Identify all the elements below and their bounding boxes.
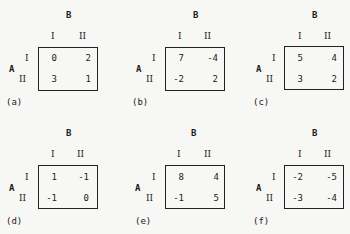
matrix-box: 5 4 3 2: [284, 46, 344, 90]
column-strategy-2-label: II: [324, 149, 331, 159]
column-strategy-1-label: I: [298, 31, 302, 41]
row-strategy-1-label: I: [152, 172, 156, 182]
cell-2-1: -1: [166, 193, 184, 203]
cell-1-2: -1: [71, 172, 89, 182]
cell-2-2: 0: [71, 193, 89, 203]
column-player-label: B: [191, 128, 196, 138]
row-strategy-1-label: I: [152, 53, 156, 63]
cell-2-2: 5: [201, 193, 219, 203]
row-strategy-2-label: II: [146, 74, 153, 84]
column-player-label: B: [66, 128, 71, 138]
cell-1-1: 0: [39, 53, 57, 63]
row-strategy-1-label: I: [25, 172, 29, 182]
row-player-label: A: [136, 64, 141, 74]
matrix-box: 0 2 3 1: [38, 47, 98, 91]
row-player-label: A: [9, 64, 14, 74]
cell-1-1: -2: [285, 172, 303, 182]
row-strategy-2-label: II: [266, 193, 273, 203]
column-strategy-2-label: II: [204, 149, 211, 159]
row-strategy-1-label: I: [272, 172, 276, 182]
column-strategy-1-label: I: [51, 149, 55, 159]
cell-1-2: -4: [200, 53, 218, 63]
cell-1-1: 8: [166, 172, 184, 182]
cell-2-1: 3: [39, 74, 57, 84]
column-player-label: B: [312, 128, 317, 138]
cell-1-1: 1: [39, 172, 57, 182]
column-player-label: B: [312, 10, 317, 20]
matrix-caption: (a): [6, 97, 22, 107]
cell-2-2: 2: [319, 74, 337, 84]
row-strategy-2-label: II: [266, 74, 273, 84]
row-player-label: A: [256, 183, 261, 193]
row-strategy-1-label: I: [25, 53, 29, 63]
column-strategy-1-label: I: [51, 31, 55, 41]
matrix-box: 1 -1 -1 0: [38, 165, 98, 209]
cell-1-2: 2: [73, 53, 91, 63]
column-player-label: B: [193, 10, 198, 20]
cell-1-2: -5: [319, 172, 337, 182]
matrix-caption: (f): [253, 216, 269, 226]
column-strategy-1-label: I: [177, 149, 181, 159]
cell-2-2: 1: [73, 74, 91, 84]
row-player-label: A: [9, 183, 14, 193]
matrix-box: 7 -4 -2 2: [165, 47, 225, 91]
column-strategy-1-label: I: [178, 31, 182, 41]
payoff-matrix-d: B I II I II A 1 -1 -1 0 (d): [0, 118, 115, 228]
cell-2-1: 3: [285, 74, 303, 84]
row-strategy-1-label: I: [272, 53, 276, 63]
cell-2-1: -3: [285, 193, 303, 203]
cell-2-2: -4: [319, 193, 337, 203]
column-strategy-2-label: II: [79, 31, 86, 41]
column-player-label: B: [66, 10, 71, 20]
payoff-matrix-a: B I II I II A 0 2 3 1 (a): [0, 0, 115, 110]
payoff-matrix-f: B I II I II A -2 -5 -3 -4 (f): [230, 118, 345, 228]
column-strategy-2-label: II: [324, 31, 331, 41]
cell-2-2: 2: [200, 74, 218, 84]
row-strategy-2-label: II: [146, 193, 153, 203]
cell-2-1: -2: [166, 74, 184, 84]
row-strategy-2-label: II: [19, 193, 26, 203]
payoff-matrix-b: B I II I II A 7 -4 -2 2 (b): [110, 0, 225, 110]
cell-1-2: 4: [319, 53, 337, 63]
payoff-matrix-c: B I II I II A 5 4 3 2 (c): [230, 0, 345, 110]
matrix-caption: (c): [253, 97, 269, 107]
matrix-box: -2 -5 -3 -4: [284, 165, 344, 209]
cell-2-1: -1: [39, 193, 57, 203]
cell-1-2: 4: [201, 172, 219, 182]
matrix-caption: (b): [132, 97, 148, 107]
matrix-caption: (e): [135, 216, 151, 226]
row-player-label: A: [256, 64, 261, 74]
matrix-caption: (d): [6, 216, 22, 226]
payoff-matrix-e: B I II I II A 8 4 -1 5 (e): [115, 118, 230, 228]
row-strategy-2-label: II: [19, 74, 26, 84]
row-player-label: A: [135, 183, 140, 193]
cell-1-1: 7: [166, 53, 184, 63]
column-strategy-2-label: II: [204, 31, 211, 41]
column-strategy-2-label: II: [77, 149, 84, 159]
cell-1-1: 5: [285, 53, 303, 63]
matrix-box: 8 4 -1 5: [165, 165, 225, 209]
column-strategy-1-label: I: [298, 149, 302, 159]
